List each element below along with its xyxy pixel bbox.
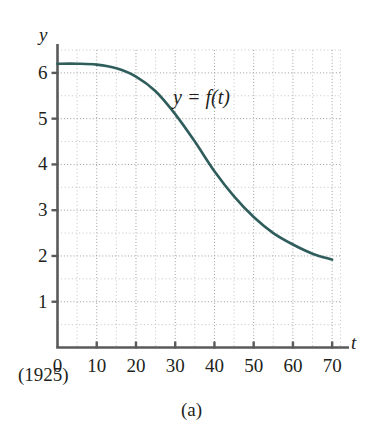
x-tick-label: 50 [237, 356, 271, 375]
figure-caption: (a) [0, 400, 383, 419]
x-axis-label: t [351, 333, 356, 352]
origin-year-note: (1925) [18, 365, 69, 384]
x-tick-label: 30 [158, 356, 192, 375]
y-axis-label: y [39, 25, 47, 44]
curve-equation-label: y = f(t) [173, 87, 230, 107]
x-tick-label: 40 [197, 356, 231, 375]
figure-panel: y t 123456 010203040506070 y = f(t) (192… [0, 0, 383, 438]
y-tick-label: 3 [26, 200, 48, 219]
x-tick-label: 20 [119, 356, 153, 375]
x-tick-label: 60 [276, 356, 310, 375]
y-tick-label: 2 [26, 246, 48, 265]
y-tick-label: 6 [26, 63, 48, 82]
x-tick-label: 10 [80, 356, 114, 375]
y-tick-label: 4 [26, 154, 48, 173]
y-tick-label: 5 [26, 109, 48, 128]
x-tick-label: 70 [315, 356, 349, 375]
y-tick-label: 1 [26, 292, 48, 311]
